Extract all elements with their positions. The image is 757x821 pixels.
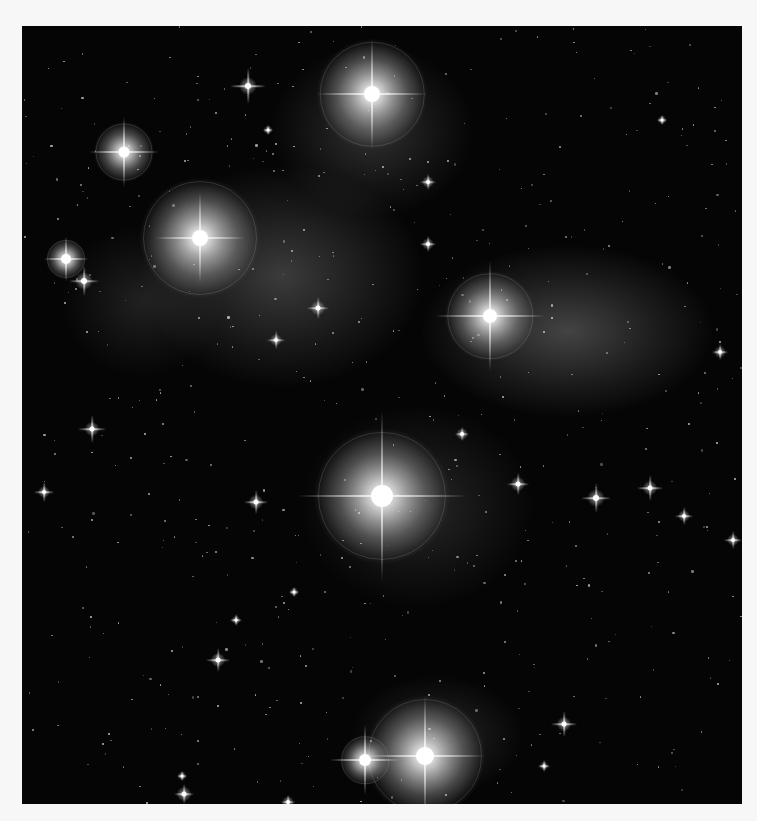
star-halo-pleione bbox=[340, 735, 390, 785]
faint-star bbox=[573, 42, 575, 44]
faint-star bbox=[165, 728, 167, 730]
faint-star bbox=[439, 680, 441, 682]
faint-star bbox=[160, 392, 162, 394]
faint-star bbox=[539, 734, 541, 736]
star-ring-atlas bbox=[368, 699, 482, 804]
diffraction-spike bbox=[657, 119, 667, 121]
faint-star bbox=[277, 83, 279, 85]
faint-star bbox=[700, 322, 702, 324]
faint-star bbox=[129, 206, 131, 208]
faint-star bbox=[323, 172, 325, 174]
faint-star bbox=[195, 519, 197, 521]
faint-star bbox=[531, 184, 533, 186]
faint-star bbox=[504, 641, 506, 643]
diffraction-spike bbox=[217, 648, 219, 672]
faint-star bbox=[606, 352, 608, 354]
diffraction-spike bbox=[65, 237, 67, 282]
faint-star bbox=[645, 448, 647, 450]
star bbox=[682, 514, 686, 518]
star bbox=[718, 350, 722, 354]
faint-star bbox=[363, 56, 366, 59]
faint-star bbox=[382, 166, 384, 168]
faint-star bbox=[595, 644, 598, 647]
faint-star bbox=[391, 796, 394, 799]
faint-star bbox=[519, 654, 521, 656]
star-halo-taygeta bbox=[94, 122, 154, 182]
faint-star bbox=[470, 69, 472, 71]
faint-star bbox=[138, 195, 140, 197]
faint-star bbox=[717, 683, 719, 685]
diffraction-spike bbox=[420, 181, 436, 183]
faint-star bbox=[428, 694, 430, 696]
star-glow bbox=[178, 772, 187, 781]
faint-star bbox=[393, 444, 395, 446]
faint-star bbox=[528, 691, 530, 693]
star bbox=[543, 765, 546, 768]
faint-star bbox=[675, 766, 677, 768]
faint-star bbox=[649, 46, 651, 48]
faint-star bbox=[215, 112, 217, 114]
faint-star bbox=[407, 611, 410, 614]
faint-star bbox=[90, 616, 92, 618]
faint-star bbox=[567, 434, 569, 436]
diffraction-spike bbox=[89, 151, 159, 153]
faint-star bbox=[394, 75, 396, 77]
diffraction-spike bbox=[267, 339, 285, 341]
star-glow bbox=[311, 301, 326, 316]
diffraction-spike bbox=[44, 258, 89, 260]
faint-star bbox=[141, 286, 143, 288]
faint-star bbox=[86, 566, 88, 568]
faint-star bbox=[548, 281, 550, 283]
faint-star bbox=[573, 28, 575, 30]
faint-star bbox=[217, 343, 219, 345]
faint-star bbox=[87, 197, 89, 199]
diffraction-spike bbox=[91, 415, 93, 443]
faint-star bbox=[721, 100, 723, 102]
faint-star bbox=[268, 667, 271, 670]
faint-star bbox=[109, 398, 111, 400]
diffraction-spike bbox=[719, 344, 721, 360]
faint-star bbox=[607, 533, 609, 535]
star-halo-merope bbox=[317, 39, 427, 149]
star bbox=[426, 180, 430, 184]
faint-star bbox=[33, 156, 35, 158]
faint-star bbox=[103, 633, 105, 635]
faint-star bbox=[140, 145, 143, 148]
faint-star bbox=[630, 50, 632, 52]
faint-star bbox=[708, 657, 710, 659]
faint-star bbox=[282, 509, 285, 512]
faint-star bbox=[216, 622, 218, 624]
star-halo-electra bbox=[140, 178, 260, 298]
faint-star bbox=[446, 278, 448, 280]
faint-star bbox=[287, 200, 289, 202]
faint-star bbox=[257, 781, 259, 783]
faint-star bbox=[551, 317, 553, 319]
faint-star bbox=[368, 110, 370, 112]
faint-star bbox=[393, 209, 395, 211]
faint-star bbox=[283, 240, 286, 243]
diffraction-spike bbox=[317, 297, 319, 319]
faint-star bbox=[80, 184, 82, 186]
diffraction-spike bbox=[517, 473, 519, 495]
faint-star bbox=[533, 664, 535, 666]
faint-star bbox=[342, 540, 344, 542]
faint-star bbox=[571, 236, 573, 238]
nebula-cloud bbox=[422, 246, 712, 416]
faint-star bbox=[662, 263, 664, 265]
faint-star bbox=[310, 380, 312, 382]
faint-star bbox=[411, 98, 413, 100]
faint-star bbox=[672, 632, 675, 635]
faint-star bbox=[308, 756, 310, 758]
faint-star bbox=[56, 178, 59, 181]
faint-star bbox=[528, 372, 530, 374]
faint-star bbox=[295, 535, 297, 537]
faint-star bbox=[576, 52, 578, 54]
star-atlas bbox=[416, 747, 434, 765]
faint-star bbox=[125, 300, 127, 302]
faint-star bbox=[665, 390, 667, 392]
faint-star bbox=[88, 167, 90, 169]
faint-star bbox=[740, 367, 742, 369]
faint-star bbox=[50, 145, 53, 148]
faint-star bbox=[605, 698, 607, 700]
faint-star bbox=[511, 792, 513, 794]
